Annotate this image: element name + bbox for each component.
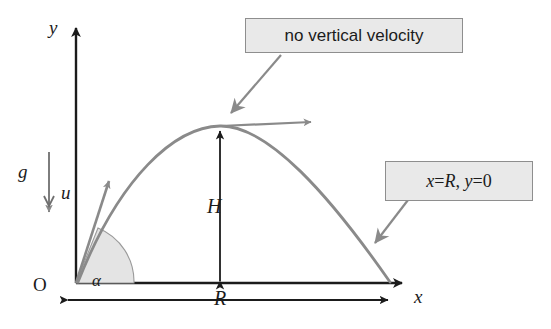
x-axis-label: x bbox=[414, 287, 422, 306]
landing-callout-leader bbox=[375, 200, 408, 243]
landing-callout-comma: , bbox=[456, 171, 461, 191]
landing-callout-eq1: = bbox=[434, 171, 444, 191]
landing-callout-text: x=R, y=0 bbox=[426, 171, 491, 192]
y-axis-label: y bbox=[49, 18, 57, 37]
apex-horizontal-velocity-arrow bbox=[221, 122, 311, 126]
origin-label: O bbox=[33, 275, 47, 294]
landing-callout-R: R bbox=[445, 171, 456, 191]
landing-callout-box: x=R, y=0 bbox=[385, 161, 533, 201]
launch-angle-label: α bbox=[92, 272, 101, 289]
landing-callout-zero: 0 bbox=[483, 171, 492, 191]
max-height-label: H bbox=[207, 196, 221, 216]
projectile-motion-figure: y g u O α H R x no vertical velocity x=R… bbox=[0, 0, 551, 329]
apex-callout-box: no vertical velocity bbox=[245, 18, 463, 53]
range-label: R bbox=[214, 288, 226, 308]
apex-callout-leader bbox=[231, 55, 281, 113]
landing-callout-y: y bbox=[465, 171, 473, 191]
landing-callout-eq2: = bbox=[473, 171, 483, 191]
gravity-label: g bbox=[18, 162, 28, 181]
apex-callout-text: no vertical velocity bbox=[285, 26, 424, 46]
initial-velocity-label: u bbox=[61, 183, 71, 202]
